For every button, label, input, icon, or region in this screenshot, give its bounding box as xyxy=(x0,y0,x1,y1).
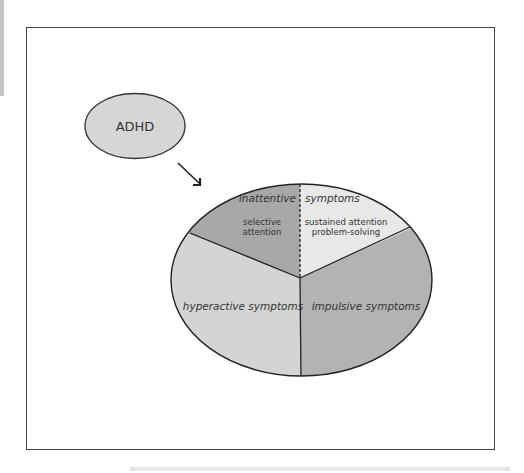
symptoms-header: symptoms xyxy=(305,192,360,204)
adhd-label: ADHD xyxy=(116,119,155,134)
adhd-diagram: ADHD inattentive symptoms selective atte… xyxy=(0,0,524,473)
sustained-label-line2: problem-solving xyxy=(312,227,380,237)
adhd-node: ADHD xyxy=(85,94,185,159)
impulsive-label: impulsive symptoms xyxy=(312,300,421,312)
selective-label-line1: selective xyxy=(243,217,281,227)
sustained-label-line1: sustained attention xyxy=(305,217,388,227)
hyperactive-label: hyperactive symptoms xyxy=(183,300,304,312)
symptom-pie xyxy=(150,180,440,380)
inattentive-header: inattentive xyxy=(239,192,296,204)
selective-label-line2: attention xyxy=(243,227,282,237)
arrow-icon xyxy=(178,163,200,185)
